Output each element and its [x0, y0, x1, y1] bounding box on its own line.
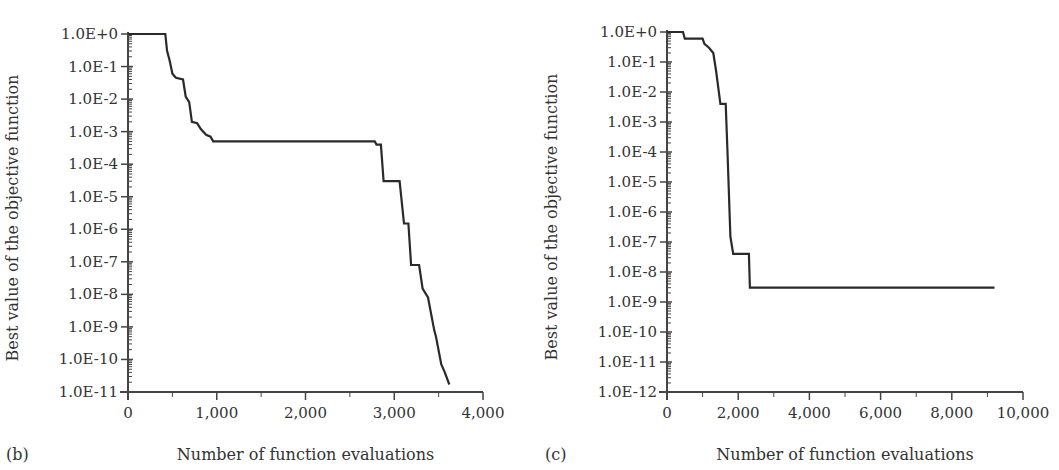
- y-tick-label: 1.0E-5: [607, 173, 657, 191]
- y-tick-label: 1.0E-7: [607, 233, 657, 251]
- y-tick-label: 1.0E-5: [68, 188, 118, 206]
- y-tick-label: 1.0E-11: [598, 353, 657, 371]
- y-tick-label: 1.0E-10: [598, 323, 657, 341]
- y-axis-label: Best value of the objective function: [542, 74, 561, 361]
- y-tick-label: 1.0E+0: [61, 25, 118, 43]
- y-tick-label: 1.0E-11: [59, 383, 118, 401]
- y-tick-label: 1.0E-2: [607, 83, 657, 101]
- x-tick-label: 8,000: [930, 404, 973, 422]
- x-tick-label: 0: [662, 404, 672, 422]
- x-axis-label: Number of function evaluations: [716, 445, 973, 464]
- x-tick-label: 2,000: [717, 404, 760, 422]
- x-tick-label: 1,000: [195, 404, 238, 422]
- data-series-line: [667, 32, 995, 288]
- y-tick-label: 1.0E-6: [68, 220, 118, 238]
- y-tick-label: 1.0E-2: [68, 90, 118, 108]
- y-tick-label: 1.0E-4: [68, 155, 118, 173]
- y-tick-label: 1.0E-6: [607, 203, 657, 221]
- y-tick-label: 1.0E-1: [607, 53, 657, 71]
- y-tick-label: 1.0E-8: [607, 263, 657, 281]
- y-tick-label: 1.0E-9: [68, 318, 118, 336]
- x-tick-label: 2,000: [284, 404, 327, 422]
- y-tick-label: 1.0E-4: [607, 143, 657, 161]
- y-tick-label: 1.0E-10: [59, 350, 118, 368]
- y-tick-label: 1.0E-9: [607, 293, 657, 311]
- x-tick-label: 6,000: [859, 404, 902, 422]
- x-axis-label: Number of function evaluations: [177, 445, 434, 464]
- x-tick-label: 10,000: [997, 404, 1050, 422]
- y-axis-label: Best value of the objective function: [3, 75, 22, 362]
- data-series-line: [128, 34, 449, 385]
- y-tick-label: 1.0E-7: [68, 253, 118, 271]
- figure: 1.0E+01.0E-11.0E-21.0E-31.0E-41.0E-51.0E…: [0, 0, 1059, 470]
- x-tick-label: 4,000: [462, 404, 505, 422]
- y-tick-label: 1.0E-3: [607, 113, 657, 131]
- y-tick-label: 1.0E-12: [598, 383, 657, 401]
- y-tick-label: 1.0E-8: [68, 285, 118, 303]
- y-tick-label: 1.0E-1: [68, 58, 118, 76]
- x-tick-label: 3,000: [373, 404, 416, 422]
- panel-label: (c): [545, 445, 566, 464]
- chart-panel-c: 1.0E+01.0E-11.0E-21.0E-31.0E-41.0E-51.0E…: [542, 23, 1049, 464]
- chart-panel-b: 1.0E+01.0E-11.0E-21.0E-31.0E-41.0E-51.0E…: [3, 25, 504, 464]
- y-tick-label: 1.0E+0: [600, 23, 657, 41]
- x-tick-label: 0: [123, 404, 133, 422]
- x-tick-label: 4,000: [788, 404, 831, 422]
- y-tick-label: 1.0E-3: [68, 123, 118, 141]
- chart-canvas: 1.0E+01.0E-11.0E-21.0E-31.0E-41.0E-51.0E…: [0, 0, 1059, 470]
- panel-label: (b): [6, 445, 29, 464]
